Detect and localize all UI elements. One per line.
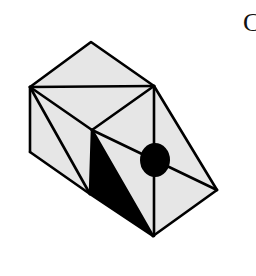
black-dot (140, 143, 170, 177)
polyhedron-figure (0, 0, 256, 276)
corner-label: C (243, 10, 256, 36)
roof-face (30, 42, 154, 87)
